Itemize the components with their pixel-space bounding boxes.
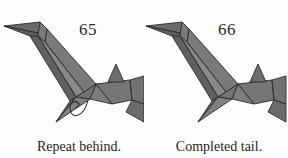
caption-completed-tail: Completed tail. bbox=[144, 138, 288, 155]
caption-repeat-behind: Repeat behind. bbox=[0, 138, 144, 155]
tail-lower-extension bbox=[268, 100, 286, 122]
origami-diagram-page: 65 Repeat behind. bbox=[0, 0, 288, 158]
dorsal-fin bbox=[250, 64, 266, 82]
diagram-panel-step-66: 66 Completed tail. bbox=[144, 0, 288, 158]
tail-lower-extension bbox=[126, 100, 144, 122]
step-number-65: 65 bbox=[0, 20, 144, 40]
step-number-66: 66 bbox=[144, 20, 288, 40]
diagram-panel-step-65: 65 Repeat behind. bbox=[0, 0, 144, 158]
dorsal-fin bbox=[108, 64, 124, 82]
